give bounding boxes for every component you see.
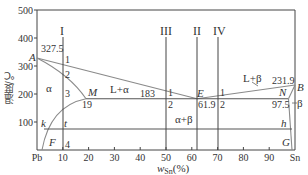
melting-point-Pb: 327.5 [41,43,64,54]
x-axis-label: wSn(%) [157,162,190,175]
point-t: t [64,117,68,129]
x-tick-label: Sn [290,152,301,163]
region-alpha: α [46,82,52,94]
point-M: M [87,86,98,98]
E-composition: 61.9 [198,99,216,110]
point-F: F [48,136,56,148]
eutectic-temp-label: 183 [140,88,155,99]
alloy-III-point-1: 1 [168,87,173,98]
alloy-I-point-4: 4 [65,139,70,150]
point-h: h [281,117,287,129]
alloy-label-IV: IV [213,24,226,38]
x-tick-label: Pb [32,152,43,163]
phase-diagram: 100200300400500 Pb102030405060708090Sn I… [0,0,308,175]
y-tick-label: 100 [18,117,33,128]
region-beta: β [297,97,303,109]
alloy-label-III: III [160,24,172,38]
x-tick-label: 40 [135,152,145,163]
alloy-IV-point-2: 2 [220,99,225,110]
alloy-I-point-3: 3 [65,88,70,99]
y-tick-label: 200 [18,89,33,100]
alloy-label-I: I [60,24,64,38]
y-axis-ticks: 100200300400500 [18,5,37,128]
alloy-label-II: II [193,24,201,38]
M-composition: 19 [82,99,92,110]
point-B: B [297,81,304,93]
point-G: G [282,136,290,148]
region-L-alpha: L+α [110,83,129,95]
x-tick-label: 80 [238,152,248,163]
x-tick-label: 90 [264,152,274,163]
x-tick-label: 30 [109,152,119,163]
N-composition: 97.5 [272,99,290,110]
point-k: k [41,117,47,129]
solidus-BN [289,85,296,99]
alloy-III-point-2: 2 [168,99,173,110]
y-tick-label: 500 [18,5,33,16]
point-A: A [28,51,36,63]
melting-point-Sn: 231.9 [272,75,295,86]
x-tick-label: 10 [58,152,68,163]
y-tick-label: 400 [18,33,33,44]
point-E: E [196,87,204,99]
region-alpha-beta: α+β [175,113,193,125]
x-tick-label: 70 [213,152,223,163]
alloy-I-point-1: 1 [65,54,70,65]
alloy-IV-point-1: 1 [220,87,225,98]
x-tick-label: 20 [84,152,94,163]
point-N: N [278,86,287,98]
alloy-I-point-2: 2 [65,69,70,80]
